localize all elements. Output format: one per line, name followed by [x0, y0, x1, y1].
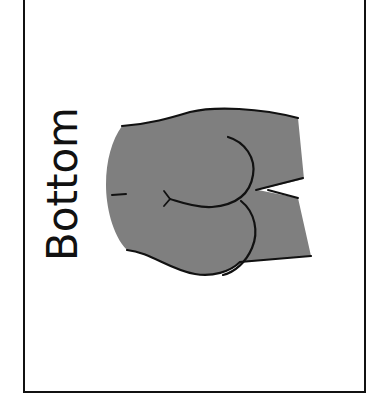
dash-mark — [112, 194, 126, 195]
body-fill — [106, 109, 311, 275]
buttocks-illustration — [0, 0, 373, 401]
